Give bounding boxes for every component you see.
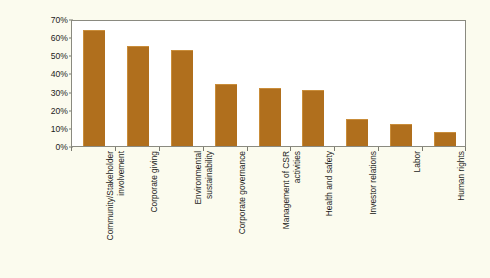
y-axis-tick-label: 30% xyxy=(36,88,68,98)
x-axis-category-label: Corporate giving xyxy=(149,151,175,269)
x-axis-category-label: Corporate governance xyxy=(237,151,263,269)
x-axis-category-label: Management of CSR activities xyxy=(281,151,307,269)
y-axis-tick-label: 10% xyxy=(36,124,68,134)
bar xyxy=(215,84,237,146)
y-axis-tick-label: 20% xyxy=(36,106,68,116)
bar-chart: Responses 0%10%20%30%40%50%60%70% Commun… xyxy=(0,0,490,278)
bar xyxy=(302,90,324,146)
x-axis-category-label: Human rights xyxy=(456,151,482,269)
x-axis-category-label: Community/Stakeholder involvement xyxy=(105,151,131,269)
bar xyxy=(346,119,368,146)
bar xyxy=(83,30,105,146)
x-axis-category-labels: Community/Stakeholder involvementCorpora… xyxy=(71,151,466,271)
plot-area xyxy=(71,20,466,147)
y-axis-tick-label: 40% xyxy=(36,69,68,79)
x-axis-category-label: Labor xyxy=(412,151,438,269)
y-axis-tick-label: 70% xyxy=(36,15,68,25)
y-axis-tick-label: 60% xyxy=(36,33,68,43)
y-axis-tick-label: 0% xyxy=(36,142,68,152)
x-axis-category-label: Environmental sustainability xyxy=(193,151,219,269)
bar xyxy=(127,46,149,146)
y-axis-tick-labels: 0%10%20%30%40%50%60%70% xyxy=(36,14,68,146)
bars-layer xyxy=(72,21,465,146)
y-axis-tick-label: 50% xyxy=(36,51,68,61)
bar xyxy=(259,88,281,146)
x-axis-category-label: Investor relations xyxy=(368,151,394,269)
bar xyxy=(390,124,412,146)
x-axis-category-label: Health and safety xyxy=(324,151,350,269)
bar xyxy=(171,50,193,146)
bar xyxy=(434,132,456,147)
